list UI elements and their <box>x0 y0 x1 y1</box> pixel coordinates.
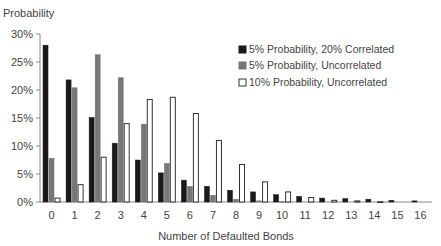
bar <box>234 199 239 202</box>
bar <box>170 97 175 202</box>
bar <box>216 140 221 202</box>
x-tick-label: 8 <box>233 209 239 221</box>
x-tick-label: 1 <box>72 209 78 221</box>
bar <box>204 186 209 202</box>
x-tick-label: 2 <box>95 209 101 221</box>
bar <box>274 195 279 202</box>
x-tick-label: 4 <box>141 209 147 221</box>
x-tick-label: 7 <box>210 209 216 221</box>
bar <box>72 88 77 202</box>
x-tick-label: 9 <box>256 209 262 221</box>
x-tick-label: 3 <box>118 209 124 221</box>
bar <box>118 78 123 202</box>
bar <box>355 201 360 202</box>
bar <box>280 202 285 203</box>
bar <box>240 164 245 202</box>
bar <box>193 114 198 202</box>
y-tick-label: 15% <box>11 112 33 124</box>
bar <box>135 160 140 202</box>
bar <box>141 124 146 202</box>
x-tick-label: 0 <box>48 209 54 221</box>
bar <box>286 192 291 202</box>
bar <box>297 196 302 202</box>
y-axis-label: Probability <box>3 7 55 19</box>
bar <box>158 173 163 202</box>
x-tick-label: 5 <box>164 209 170 221</box>
x-axis-label: Number of Defaulted Bonds <box>158 230 294 242</box>
bar <box>332 200 337 202</box>
bar <box>257 201 262 202</box>
bar <box>89 117 94 202</box>
bar <box>55 198 60 202</box>
bar <box>378 202 383 203</box>
y-tick-label: 5% <box>17 168 33 180</box>
legend-label: 5% Probability, Uncorrelated <box>249 59 381 71</box>
x-tick-label: 15 <box>391 209 403 221</box>
bar <box>343 199 348 202</box>
legend-label: 5% Probability, 20% Correlated <box>249 43 394 55</box>
legend-swatch <box>239 46 246 53</box>
bar <box>320 198 325 202</box>
bar <box>228 190 233 202</box>
legend-label: 10% Probability, Uncorrelated <box>249 76 387 88</box>
bar <box>210 195 215 202</box>
x-tick-label: 6 <box>187 209 193 221</box>
legend-swatch <box>239 79 246 86</box>
bar <box>181 180 186 202</box>
x-tick-label: 10 <box>276 209 288 221</box>
bar <box>147 100 152 202</box>
y-tick-label: 20% <box>11 84 33 96</box>
bar <box>78 185 83 202</box>
bar <box>309 198 314 202</box>
bar <box>164 163 169 202</box>
bar-chart: Probability0%5%10%15%20%25%30%0123456789… <box>0 0 441 246</box>
legend-swatch <box>239 62 246 69</box>
x-tick-label: 16 <box>414 209 426 221</box>
bar <box>101 157 106 202</box>
bar <box>389 200 394 202</box>
bar <box>112 143 117 202</box>
bar <box>412 201 417 202</box>
x-tick-label: 14 <box>368 209 380 221</box>
x-tick-label: 11 <box>299 209 310 221</box>
bar <box>43 45 48 202</box>
bar <box>49 158 54 202</box>
x-tick-label: 12 <box>322 209 334 221</box>
bar <box>187 186 192 202</box>
x-tick-label: 13 <box>345 209 357 221</box>
bar <box>124 124 129 202</box>
bar <box>263 182 268 202</box>
bar <box>95 55 100 202</box>
y-tick-label: 25% <box>11 56 33 68</box>
bar <box>251 192 256 202</box>
y-tick-label: 10% <box>11 140 33 152</box>
y-tick-label: 0% <box>17 196 33 208</box>
chart-root: Probability0%5%10%15%20%25%30%0123456789… <box>0 0 441 246</box>
bar <box>66 80 71 202</box>
bar <box>366 199 371 202</box>
y-tick-label: 30% <box>11 28 33 40</box>
